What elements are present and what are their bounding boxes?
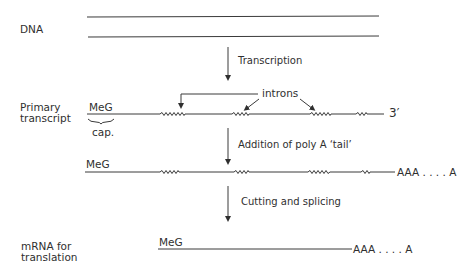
mrna-label-line2: translation — [21, 251, 77, 263]
primary-transcript-label-line2: transcript — [20, 112, 71, 124]
mrna-tail-label: AAA . . . . A — [353, 243, 412, 255]
intron-pointer-1 — [181, 94, 258, 106]
step-splicing-label: Cutting and splicing — [241, 196, 341, 208]
polyA-transcript-strand — [85, 171, 395, 174]
intron-pointer-3 — [300, 99, 313, 109]
dna-strand-top — [87, 16, 379, 17]
cap-brace — [88, 119, 114, 124]
cap-label: cap. — [92, 126, 114, 138]
dna-label: DNA — [20, 23, 43, 35]
diagram-canvas — [0, 0, 466, 267]
polyA-tail-label: AAA . . . . A — [397, 166, 456, 178]
three-prime-end-label: 3′ — [389, 107, 399, 119]
step-transcription-label: Transcription — [238, 55, 302, 67]
intron-pointer-2 — [246, 99, 259, 109]
polyA-cap-text: MeG — [86, 158, 110, 170]
dna-strand-bottom — [88, 36, 379, 37]
mrna-cap-text: MeG — [159, 236, 183, 248]
primary-cap-text: MeG — [89, 101, 113, 113]
introns-label: introns — [262, 87, 298, 99]
primary-transcript-strand — [87, 113, 384, 116]
step-polyA-label: Addition of poly A ‘tail’ — [238, 139, 352, 151]
